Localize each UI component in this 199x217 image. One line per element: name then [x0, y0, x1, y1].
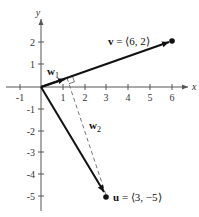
vector-u-endpoint — [103, 194, 109, 200]
y-tick-label: 2 — [30, 37, 35, 48]
y-axis: 2 1 -1 -2 -3 -4 -5 y — [27, 7, 44, 211]
vector-u — [41, 87, 104, 192]
x-tick-label: 3 — [104, 92, 109, 103]
x-tick-label: 1 — [61, 92, 66, 103]
vector-u-label: u = ⟨3, −5⟩ — [113, 191, 162, 203]
y-tick-label: -4 — [27, 169, 35, 180]
x-tick-label: 4 — [126, 92, 131, 103]
x-axis: -1 1 2 3 4 5 6 x — [6, 81, 197, 103]
vector-v-endpoint — [169, 38, 175, 44]
projection-diagram: -1 1 2 3 4 5 6 x 2 1 -1 -2 -3 -4 -5 y — [0, 0, 199, 217]
y-tick-label: 1 — [30, 59, 35, 70]
x-axis-label: x — [191, 81, 197, 92]
y-axis-label: y — [35, 7, 41, 18]
y-tick-label: -1 — [27, 104, 35, 115]
vector-w2-label: w2 — [89, 119, 101, 134]
vector-w1-label: w1 — [47, 65, 59, 80]
x-tick-label: -1 — [16, 92, 24, 103]
vector-w1 — [41, 79, 65, 87]
x-tick-label: 6 — [170, 92, 175, 103]
y-tick-label: -2 — [27, 126, 35, 137]
x-tick-label: 2 — [83, 92, 88, 103]
y-tick-label: -5 — [27, 191, 35, 202]
x-tick-label: 5 — [148, 92, 153, 103]
vector-v-label: v = ⟨6, 2⟩ — [108, 35, 150, 47]
y-tick-label: -3 — [27, 147, 35, 158]
